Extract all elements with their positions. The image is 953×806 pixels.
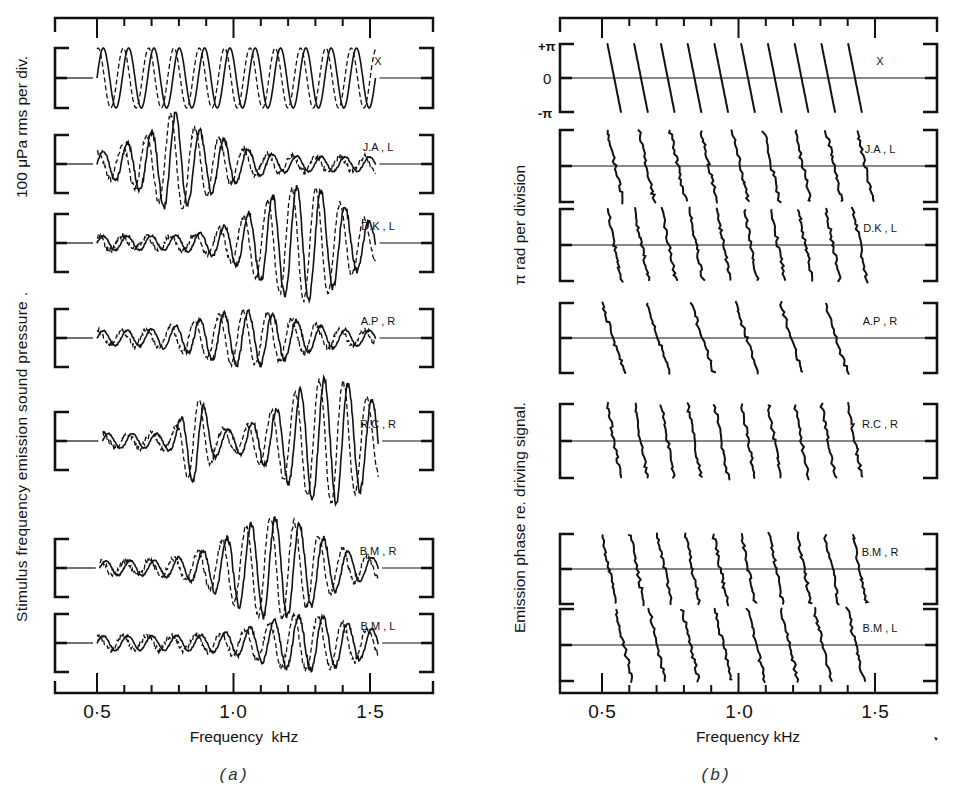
subject-label: X <box>374 55 382 67</box>
panel-a-xtick-0-5: 0·5 <box>83 701 110 722</box>
trace-solid <box>97 113 376 210</box>
subject-label: A.P , R <box>863 315 898 327</box>
phase-segment <box>846 608 865 681</box>
phase-segment <box>662 208 678 280</box>
subject-label: J.A , L <box>363 141 394 153</box>
panel-a-ylabel-main: Stimulus frequency emission sound pressu… <box>13 292 30 622</box>
trace-dashed <box>100 519 379 620</box>
phase-segment <box>713 535 728 606</box>
phase-segment <box>824 535 838 605</box>
panel-a-ylabel-scale: 100 μPa rms per div. <box>13 56 30 198</box>
phase-segment <box>826 304 849 374</box>
trace-solid <box>97 48 376 108</box>
phase-segment <box>635 208 649 280</box>
trace-dashed <box>97 614 378 671</box>
subject-label: D.K , L <box>361 220 395 232</box>
figure-canvas: Stimulus frequency emission sound pressu… <box>0 0 953 806</box>
panel-a-axes <box>55 18 433 693</box>
phase-segment <box>768 533 783 604</box>
phase-segment <box>798 533 812 604</box>
panel-b-subject-labels: XJ.A , LD.K , LA.P , RR.C , RB.M , RB.M … <box>862 55 899 634</box>
phase-segment <box>715 609 732 680</box>
phase-segment <box>762 132 780 203</box>
phase-segment <box>688 403 702 477</box>
panel-b-ylabel-main: Emission phase re. driving signal. <box>511 402 528 633</box>
phase-segment <box>629 535 644 605</box>
panel-a-caption: (a) <box>218 766 249 785</box>
phase-segment <box>690 208 705 280</box>
phase-segment <box>780 302 802 372</box>
panel-b-xtick-0-5: 0·5 <box>588 701 615 722</box>
phase-segment <box>794 405 808 479</box>
phase-segment <box>607 403 621 477</box>
panel-b-ylabel-scale: π rad per division <box>511 165 528 285</box>
phase-segment <box>681 610 699 682</box>
panel-b-axes <box>560 18 937 693</box>
panel-a-xtick-1-5: 1·5 <box>356 701 383 722</box>
phase-tick-plus-pi: +π <box>538 39 556 54</box>
subject-label: B.M , L <box>361 620 396 632</box>
panel-b-xtick-1-5: 1·5 <box>861 701 888 722</box>
subject-label: R.C , R <box>360 418 396 430</box>
phase-segment <box>742 534 757 603</box>
phase-segment <box>717 209 731 280</box>
panel-b-traces <box>572 44 925 682</box>
phase-tick-zero: 0 <box>543 70 551 87</box>
subject-label: A.P , R <box>361 315 396 327</box>
subject-label: B.M , R <box>360 545 397 557</box>
stray-mark <box>934 737 938 741</box>
panel-a-subject-labels: XJ.A , LD.K , LA.P , RR.C , RB.M , RB.M … <box>360 55 397 632</box>
trace-dashed <box>97 113 376 209</box>
phase-segment <box>714 405 730 479</box>
phase-segment <box>616 610 632 682</box>
phase-segment <box>848 403 862 476</box>
panel-b-xtick-1-0: 1·0 <box>725 701 752 722</box>
phase-segment <box>608 131 623 204</box>
subject-label: B.M , L <box>863 622 898 634</box>
panel-b-xlabel: Frequency kHz <box>696 728 800 745</box>
phase-segment <box>701 131 717 202</box>
subject-label: J.A , L <box>865 143 896 155</box>
subject-label: B.M , R <box>862 546 899 558</box>
trace-dashed <box>103 378 379 502</box>
panel-a-xtick-1-0: 1·0 <box>219 701 246 722</box>
subject-label: R.C , R <box>862 418 898 430</box>
panel-a-xlabel: Frequency kHz <box>190 728 299 745</box>
panel-b-caption: (b) <box>700 766 731 785</box>
phase-segment <box>647 304 669 374</box>
subject-label: X <box>876 55 884 67</box>
phase-tick-minus-pi: -π <box>538 106 552 121</box>
trace-dashed <box>97 308 376 366</box>
subject-label: D.K , L <box>863 222 897 234</box>
